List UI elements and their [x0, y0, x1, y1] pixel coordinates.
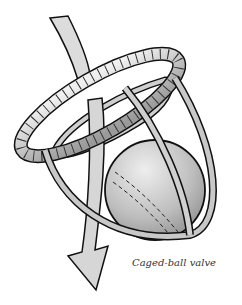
figure-caption: Caged-ball valve	[132, 257, 216, 268]
flow-arrow	[50, 16, 90, 80]
